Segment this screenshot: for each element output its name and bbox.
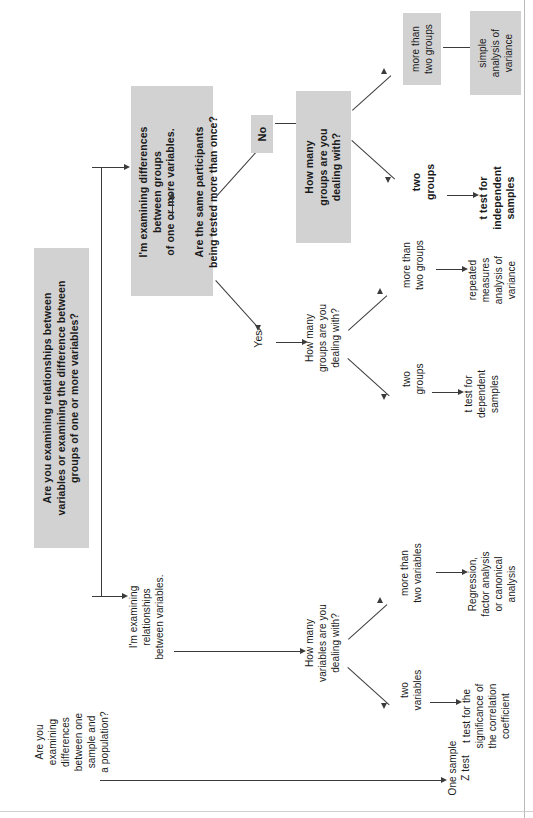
node-no-more-than-two-groups: more than two groups bbox=[403, 13, 441, 85]
arrowhead-to-morethan-variables bbox=[377, 597, 383, 603]
arrowhead-to-morethan-groups-no bbox=[381, 68, 387, 74]
node-yes-more-than-two-groups: more than two groups bbox=[400, 230, 426, 300]
arrowhead-to-morethan-groups-yes bbox=[377, 288, 383, 294]
node-result-one-sample-z: One sample Z test bbox=[446, 730, 472, 806]
node-groups-question-plain: How many groups are you dealing with? bbox=[303, 268, 342, 408]
node-result-regression: Regression, factor analysis or canonical… bbox=[466, 541, 518, 627]
connector-groupsplain-to-two bbox=[347, 358, 389, 396]
node-variables-question: How many variables are you dealing with? bbox=[303, 568, 342, 718]
node-two-variables: two variables bbox=[398, 657, 424, 723]
connector-spine-to-differences bbox=[101, 167, 125, 168]
arrowhead-to-two-variables bbox=[381, 703, 387, 709]
node-result-t-dependent: t test for dependent samples bbox=[462, 354, 501, 434]
connector-variables-to-morethan bbox=[348, 604, 387, 640]
node-result-t-independent: t test for independent samples bbox=[477, 156, 518, 240]
arrowhead-to-repeat-question bbox=[169, 192, 175, 198]
page-edge-rule-bottom bbox=[0, 811, 533, 812]
connector-differences-to-repeat bbox=[172, 196, 173, 218]
connector-yes-to-groups-plain bbox=[276, 342, 304, 343]
connector-groupsbold-to-two bbox=[351, 140, 395, 180]
connector-variables-to-two bbox=[347, 667, 389, 705]
node-yes-two-groups: two groups bbox=[400, 346, 426, 412]
connector-twovars-to-tcorrelation bbox=[430, 702, 458, 703]
node-branch-relationships: I'm examining relationships between vari… bbox=[127, 542, 166, 692]
node-groups-question-bold: How many groups are you dealing with? bbox=[296, 91, 351, 243]
node-result-repeated-anova: repeated measures analysis of variance bbox=[466, 238, 518, 322]
connector-spine-to-relationships bbox=[101, 596, 123, 597]
connector-relationships-to-variables bbox=[174, 651, 302, 652]
node-result-simple-anova: simple analysis of variance bbox=[470, 11, 521, 95]
connector-morethan-to-repeated-anova bbox=[436, 269, 464, 270]
node-no-two-groups: two groups bbox=[410, 149, 437, 215]
connector-twogroups-to-tindependent bbox=[447, 195, 475, 196]
connector-root-spine bbox=[101, 167, 102, 597]
node-root-question: Are you examining relationships between … bbox=[34, 248, 89, 548]
node-answer-no: No bbox=[251, 115, 273, 153]
arrowhead-to-two-groups-no bbox=[385, 177, 391, 183]
connector-repeat-to-no bbox=[216, 150, 258, 197]
flowchart-canvas: Are you examining relationships between … bbox=[0, 0, 533, 818]
arrowhead-to-two-groups-yes bbox=[381, 394, 387, 400]
node-answer-yes: Yes bbox=[252, 321, 266, 357]
page-edge-rule-right bbox=[524, 0, 525, 818]
node-sample-question: Are you examining differences between on… bbox=[33, 682, 111, 802]
node-more-than-two-variables: more than two variables bbox=[398, 534, 424, 612]
connector-twogroups-to-tdependent bbox=[432, 392, 460, 393]
connector-morethan-to-anova bbox=[443, 47, 473, 48]
arrowhead-to-differences bbox=[124, 164, 130, 170]
connector-sample-to-z-test bbox=[100, 780, 443, 781]
node-repeat-question: Are the same participants being tested m… bbox=[193, 92, 220, 292]
connector-groupsplain-to-morethan bbox=[348, 295, 387, 331]
connector-groupsbold-to-morethan bbox=[352, 75, 391, 111]
connector-morethanvars-to-regression bbox=[436, 572, 464, 573]
